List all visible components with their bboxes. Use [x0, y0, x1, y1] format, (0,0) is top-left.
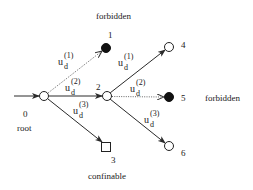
node-1-label: 1	[108, 30, 113, 40]
caption-confinable: confinable	[88, 171, 126, 181]
svg-text:(2): (2)	[136, 78, 146, 87]
edge-label-2-6: u d (3)	[144, 109, 160, 129]
edge-label-0-1: u d (1)	[58, 51, 74, 71]
node-4-open-circle	[165, 43, 174, 52]
svg-text:u: u	[73, 105, 78, 116]
node-5-filled-circle	[165, 93, 174, 102]
caption-root: root	[17, 123, 32, 133]
node-0-label: 0	[23, 109, 28, 119]
caption-forbidden-node-5: forbidden	[205, 93, 240, 103]
svg-text:u: u	[118, 57, 123, 68]
svg-text:u: u	[65, 82, 70, 93]
tree-diagram: 0 1 2 3 4 5 6 forbidden root confinable …	[0, 0, 253, 190]
node-6-open-circle	[165, 142, 174, 151]
node-5-label: 5	[181, 93, 186, 103]
edge-2-to-6	[110, 99, 165, 143]
edge-label-0-3: u d (3)	[73, 100, 89, 120]
node-4-label: 4	[181, 40, 186, 50]
svg-text:(1): (1)	[124, 52, 134, 61]
svg-text:d: d	[79, 111, 83, 120]
svg-text:(3): (3)	[79, 100, 89, 109]
svg-text:d: d	[64, 62, 68, 71]
node-2-open-circle	[103, 92, 112, 101]
svg-text:d: d	[71, 88, 75, 97]
node-6-label: 6	[181, 148, 186, 158]
svg-text:(3): (3)	[150, 109, 160, 118]
node-1-filled-circle	[102, 44, 111, 53]
svg-text:u: u	[144, 114, 149, 125]
svg-text:d: d	[136, 89, 140, 98]
edge-label-2-4: u d (1)	[118, 52, 134, 72]
node-3-open-square	[102, 143, 111, 152]
node-0-open-circle	[40, 92, 49, 101]
node-2-label: 2	[96, 82, 101, 92]
edge-0-to-1	[48, 51, 102, 93]
svg-text:(2): (2)	[71, 77, 81, 86]
svg-text:u: u	[130, 83, 135, 94]
svg-text:u: u	[58, 56, 63, 67]
node-3-label: 3	[111, 155, 116, 165]
edge-label-0-2: u d (2)	[65, 77, 81, 97]
svg-text:(1): (1)	[64, 51, 74, 60]
svg-text:d: d	[150, 120, 154, 129]
svg-text:d: d	[124, 63, 128, 72]
edge-label-2-5: u d (2)	[130, 78, 146, 98]
caption-forbidden-node-1: forbidden	[96, 11, 131, 21]
